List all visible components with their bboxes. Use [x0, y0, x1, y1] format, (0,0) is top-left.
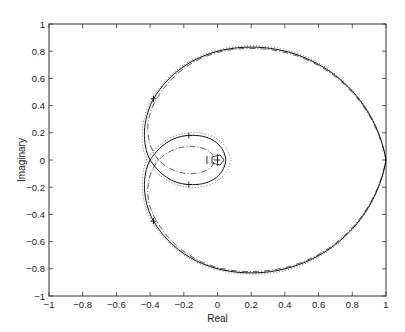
y-axis-label: Imaginary	[16, 138, 27, 182]
x-tick-label: −1	[44, 299, 55, 310]
dashdot-curve	[148, 48, 386, 271]
x-tick-label: 0.6	[312, 299, 325, 310]
plus-marker	[186, 133, 192, 139]
y-tick-label: 0.4	[32, 100, 45, 111]
x-tick-label: −0.6	[107, 299, 126, 310]
x-axis-label: Real	[207, 313, 228, 324]
y-tick-label: 0.8	[32, 46, 45, 57]
solid-curve	[144, 47, 386, 273]
frequency-markers	[150, 96, 220, 224]
x-tick-label: 0.4	[278, 299, 291, 310]
plus-marker	[215, 157, 221, 163]
nyquist-chart: −1−0.8−0.6−0.4−0.200.20.40.60.81 10.80.6…	[0, 0, 405, 332]
y-tick-label: 1	[40, 19, 45, 30]
y-tick-label: 0	[40, 155, 45, 166]
x-tick-label: −0.4	[141, 299, 160, 310]
y-tick-label: −0.8	[26, 263, 45, 274]
x-tick-label: 0.2	[245, 299, 258, 310]
x-tick-label: −0.2	[174, 299, 193, 310]
y-tick-label: 0.2	[32, 127, 45, 138]
x-axis: −1−0.8−0.6−0.4−0.200.20.40.60.81	[44, 24, 389, 310]
x-tick-label: 0	[215, 299, 220, 310]
x-tick-label: 0.8	[346, 299, 359, 310]
y-tick-label: −0.4	[26, 209, 45, 220]
y-tick-label: −1	[34, 291, 45, 302]
y-axis: 10.80.60.40.20−0.2−0.4−0.6−0.8−1	[26, 19, 386, 302]
x-tick-label: 1	[383, 299, 388, 310]
x-tick-label: −0.8	[73, 299, 92, 310]
y-tick-label: 0.6	[32, 73, 45, 84]
y-tick-label: −0.2	[26, 182, 45, 193]
dotted-curve	[142, 46, 386, 274]
y-tick-label: −0.6	[26, 236, 45, 247]
